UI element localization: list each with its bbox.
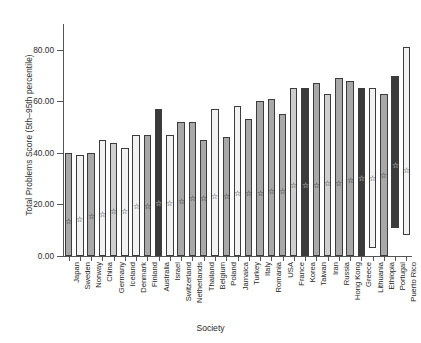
chart-root: Total Problems Score (5th–95th percentil… [0,0,421,343]
x-label-germany: Germany [117,262,126,293]
x-label-finland: Finland [150,262,159,287]
bar-russia [335,78,342,256]
x-tick-mark [114,256,115,261]
x-label-iran: Iran [331,262,340,275]
bar-germany [110,143,117,256]
x-label-russia: Russia [342,262,351,285]
x-tick-mark [80,256,81,261]
bar-netherlands [189,122,196,256]
y-tick-mark [57,256,63,257]
x-label-sweden: Sweden [83,262,92,289]
y-tick-label: 40.00 [33,148,54,158]
x-tick-mark [283,256,284,261]
x-tick-mark [226,256,227,261]
bar-iran [324,94,331,256]
bar-hong-kong [346,81,353,256]
bar-france [290,88,297,256]
x-label-portugal: Portugal [398,262,407,290]
x-label-netherlands: Netherlands [195,262,204,303]
bar-israel [166,135,173,256]
x-tick-mark [328,256,329,261]
x-tick-mark [204,256,205,261]
x-tick-mark [136,256,137,261]
x-label-poland: Poland [229,262,238,286]
x-tick-mark [170,256,171,261]
x-tick-mark [238,256,239,261]
bar-iceland [121,148,128,256]
bar-portugal [391,76,398,228]
x-tick-mark [384,256,385,261]
x-tick-mark [159,256,160,261]
bar-romania [268,99,275,256]
x-tick-mark [305,256,306,261]
x-label-jamaica: Jamaica [241,262,250,290]
bar-denmark [132,135,139,256]
y-tick-mark [57,101,63,102]
bar-switzerland [177,122,184,256]
x-label-denmark: Denmark [139,262,148,293]
x-tick-mark [316,256,317,261]
y-tick-mark [57,153,63,154]
bar-taiwan [313,83,320,256]
x-tick-mark [249,256,250,261]
x-tick-mark [260,256,261,261]
bar-poland [223,137,230,256]
x-label-belgium: Belgium [218,262,227,289]
x-tick-mark [406,256,407,261]
bar-turkey [245,119,252,256]
y-tick-label: 0.00 [38,251,54,261]
x-label-france: France [297,262,306,286]
x-label-china: China [105,262,114,282]
x-tick-mark [91,256,92,261]
bar-finland [144,135,151,256]
x-label-greece: Greece [364,262,373,287]
bar-ethiopia [380,94,387,256]
bar-jamaica [234,106,241,256]
bar-greece [358,88,365,256]
bar-usa [279,114,286,256]
x-tick-mark [102,256,103,261]
x-tick-mark [69,256,70,261]
x-label-switzerland: Switzerland [184,262,193,301]
bar-sweden [76,155,83,256]
plot-area: ☆☆☆☆☆☆☆☆☆☆☆☆☆☆☆☆☆☆☆☆☆☆☆☆☆☆☆☆☆☆☆ 0.0020.0… [63,24,412,256]
x-tick-mark [361,256,362,261]
x-tick-mark [192,256,193,261]
y-tick-mark [57,50,63,51]
x-tick-mark [395,256,396,261]
y-tick-label: 20.00 [33,199,54,209]
x-tick-mark [373,256,374,261]
x-tick-mark [147,256,148,261]
x-label-hong-kong: Hong Kong [353,262,362,300]
x-label-japan: Japan [72,262,81,283]
x-tick-mark [125,256,126,261]
x-tick-mark [350,256,351,261]
bar-australia [155,109,162,256]
y-tick-mark [57,204,63,205]
y-tick-label: 60.00 [33,96,54,106]
x-axis-title: Society [0,323,421,333]
bar-japan [65,153,72,256]
x-label-puerto-rico: Puerto Rico [409,262,418,302]
bar-puerto-rico [403,47,410,235]
bar-belgium [211,109,218,256]
x-label-iceland: Iceland [128,262,137,287]
x-label-taiwan: Taiwan [319,262,328,286]
bar-series: ☆☆☆☆☆☆☆☆☆☆☆☆☆☆☆☆☆☆☆☆☆☆☆☆☆☆☆☆☆☆☆ [63,24,412,256]
x-tick-mark [294,256,295,261]
bar-italy [256,101,263,256]
x-label-thailand: Thailand [207,262,216,291]
x-label-israel: Israel [173,262,182,281]
y-tick-label: 80.00 [33,45,54,55]
bar-korea [301,88,308,256]
x-label-norway: Norway [94,262,103,288]
x-tick-mark [339,256,340,261]
x-label-australia: Australia [162,262,171,292]
bar-norway [87,153,94,256]
x-tick-mark [181,256,182,261]
x-label-korea: Korea [308,262,317,282]
x-label-usa: USA [286,262,295,278]
bar-lithuania [369,88,376,248]
bar-china [99,140,106,256]
x-tick-mark [215,256,216,261]
